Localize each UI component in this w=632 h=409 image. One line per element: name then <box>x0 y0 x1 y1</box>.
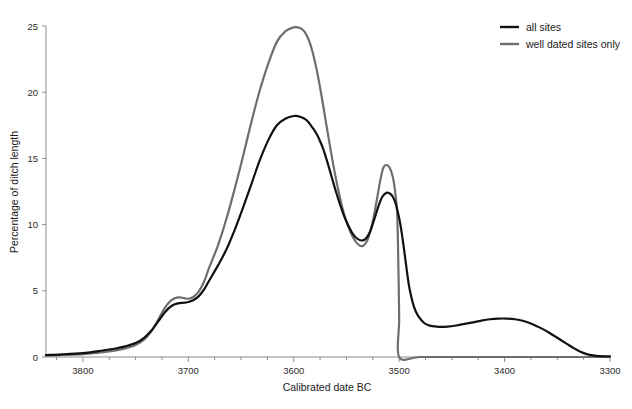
y-tick-label: 5 <box>33 285 38 296</box>
x-axis-title: Calibrated date BC <box>283 381 372 393</box>
y-tick-label: 25 <box>27 21 38 32</box>
x-tick-label: 3800 <box>72 365 93 376</box>
x-tick-label: 3400 <box>494 365 515 376</box>
y-tick-label: 15 <box>27 153 38 164</box>
x-tick-label: 3500 <box>389 365 410 376</box>
legend-label: all sites <box>526 21 561 33</box>
x-tick-label: 3700 <box>178 365 199 376</box>
chart-background <box>0 0 632 409</box>
x-tick-label: 3600 <box>283 365 304 376</box>
legend-label: well dated sites only <box>525 38 621 50</box>
y-tick-label: 20 <box>27 87 38 98</box>
density-plot: 0510152025 380037003600350034003300 all … <box>0 0 632 409</box>
y-axis-title: Percentage of ditch length <box>8 131 20 253</box>
y-tick-label: 10 <box>27 219 38 230</box>
y-tick-label: 0 <box>33 352 38 363</box>
x-tick-label: 3300 <box>599 365 620 376</box>
chart-container: 0510152025 380037003600350034003300 all … <box>0 0 632 409</box>
